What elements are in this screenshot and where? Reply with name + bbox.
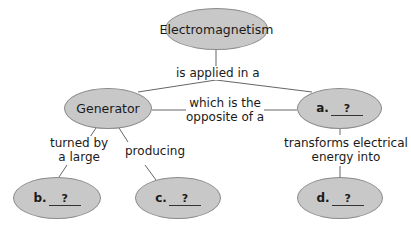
node-label: Generator xyxy=(76,101,139,116)
link-is-applied-in: is applied in a xyxy=(176,66,260,80)
node-d-blank: d. ? xyxy=(297,177,383,219)
link-producing: producing xyxy=(125,144,185,158)
answer-blank: ? xyxy=(331,103,363,116)
link-opposite-of: which is the opposite of a xyxy=(186,96,264,124)
link-transforms: transforms electrical energy into xyxy=(284,136,408,164)
node-b-blank: b. ? xyxy=(13,177,101,219)
answer-blank: ? xyxy=(332,193,364,206)
node-electromagnetism: Electromagnetism xyxy=(165,8,268,50)
node-label: Electromagnetism xyxy=(160,22,274,37)
answer-blank: ? xyxy=(169,193,201,206)
answer-blank: ? xyxy=(49,193,81,206)
node-c-blank: c. ? xyxy=(135,177,221,219)
node-generator: Generator xyxy=(64,88,152,129)
link-turned-by: turned by a large xyxy=(50,136,108,164)
node-a-blank: a. ? xyxy=(297,88,382,129)
